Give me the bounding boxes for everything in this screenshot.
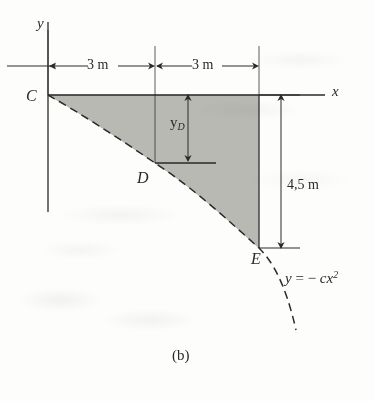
point-label-D: D [137, 170, 149, 186]
figure-container: y x C D E 3 m 3 m 4,5 m yD y = − cx2 (b) [0, 0, 374, 401]
figure-drawing [0, 0, 374, 401]
dimension-line-3m-left [7, 62, 155, 69]
x-axis-label: x [332, 84, 339, 99]
equation-operator: = − [292, 270, 320, 286]
point-label-E: E [251, 251, 261, 267]
dimension-label-3m-right: 3 m [192, 58, 213, 72]
equation-y: y [285, 270, 292, 286]
equation-exponent: 2 [333, 269, 338, 280]
dimension-label-3m-left: 3 m [87, 58, 108, 72]
y-axis-label: y [37, 16, 44, 31]
point-label-C: C [26, 88, 37, 104]
dimension-line-4-5m [259, 94, 300, 249]
shaded-area [48, 95, 259, 248]
yD-subscript: D [178, 121, 185, 132]
dimension-label-yD: yD [170, 115, 185, 132]
curve-equation-label: y = − cx2 [285, 270, 338, 286]
yD-main: y [170, 114, 178, 130]
dimension-label-4-5m: 4,5 m [287, 178, 319, 192]
equation-c: c [320, 270, 327, 286]
figure-caption: (b) [172, 348, 190, 363]
